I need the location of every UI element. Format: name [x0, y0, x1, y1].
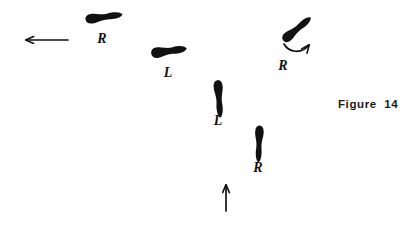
footprint-pivot-sole — [280, 14, 314, 44]
footprint-second: L — [150, 43, 187, 80]
footprint-diagram: R L L R R — [0, 0, 420, 231]
footprint-pivot-label: R — [277, 58, 287, 73]
footprint-top-left: R — [85, 10, 123, 46]
footprint-bottom-label: R — [252, 160, 262, 175]
arrow-pivot-turn — [284, 44, 309, 51]
footprint-middle-label: L — [213, 113, 223, 128]
arrow-pivot-turn-path — [284, 44, 309, 51]
footprint-bottom-sole — [254, 125, 264, 162]
footprint-second-sole — [150, 43, 187, 58]
footprint-middle: L — [213, 80, 225, 128]
footprint-top-left-sole — [85, 10, 123, 25]
figure-caption: Figure 14 — [338, 98, 398, 110]
figure-canvas: R L L R R — [0, 0, 420, 231]
footprint-second-label: L — [163, 65, 173, 80]
footprint-top-left-label: R — [96, 31, 106, 46]
footprint-pivot: R — [277, 14, 313, 73]
footprint-bottom: R — [252, 125, 264, 175]
